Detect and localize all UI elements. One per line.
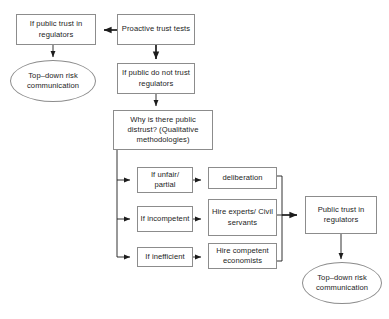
node-label: If inefficient bbox=[140, 252, 190, 262]
node-label: Hire experts/ Civil servants bbox=[211, 207, 274, 227]
node-label: If unfair/ partial bbox=[140, 170, 190, 190]
node-top-down-risk-communication-left[interactable]: Top–down risk communication bbox=[10, 60, 96, 102]
node-public-trust-in-regulators[interactable]: Public trust in regulators bbox=[305, 196, 377, 234]
node-label: If public trust in regulators bbox=[19, 19, 93, 39]
node-label: If public do not trust regulators bbox=[120, 68, 192, 88]
node-label: Why is there public distrust? (Qualitati… bbox=[116, 115, 210, 145]
node-deliberation[interactable]: deliberation bbox=[208, 167, 277, 189]
node-top-down-risk-communication-right[interactable]: Top–down risk communication bbox=[302, 262, 382, 304]
node-proactive-trust-tests[interactable]: Proactive trust tests bbox=[117, 14, 195, 45]
node-hire-experts-civil-servants[interactable]: Hire experts/ Civil servants bbox=[208, 199, 277, 236]
node-label: Proactive trust tests bbox=[120, 24, 192, 34]
node-if-inefficient[interactable]: If inefficient bbox=[137, 247, 193, 267]
edge-hire-economists-to-rail bbox=[277, 215, 282, 261]
node-label: Top–down risk communication bbox=[13, 71, 93, 91]
node-hire-competent-economists[interactable]: Hire competent economists bbox=[208, 243, 277, 269]
edge-deliberation-to-rail bbox=[277, 176, 282, 215]
node-if-incompetent[interactable]: If incompetent bbox=[137, 206, 193, 232]
node-label: Top–down risk communication bbox=[305, 273, 379, 293]
node-label: If incompetent bbox=[140, 214, 190, 224]
node-label: Public trust in regulators bbox=[308, 205, 374, 225]
node-if-unfair-partial[interactable]: If unfair/ partial bbox=[137, 167, 193, 193]
node-label: deliberation bbox=[211, 173, 274, 183]
node-why-is-there-public-distrust[interactable]: Why is there public distrust? (Qualitati… bbox=[113, 110, 213, 150]
node-if-public-trust-in-regulators[interactable]: If public trust in regulators bbox=[16, 14, 96, 45]
flowchart-canvas: If public trust in regulators Proactive … bbox=[0, 0, 389, 319]
node-label: Hire competent economists bbox=[211, 246, 274, 266]
node-if-public-do-not-trust-regulators[interactable]: If public do not trust regulators bbox=[117, 63, 195, 94]
